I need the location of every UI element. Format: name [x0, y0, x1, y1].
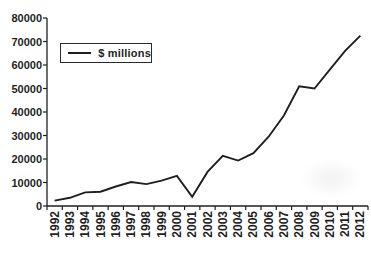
x-tick-label: 2006: [262, 211, 276, 238]
x-tick-label: 2004: [231, 211, 245, 238]
x-tick-label: 1999: [155, 211, 169, 238]
y-tick-label: 20000: [11, 153, 42, 165]
x-tick-label: 1996: [109, 211, 123, 238]
x-tick-label: 2010: [323, 211, 337, 238]
x-tick-label: 2001: [185, 211, 199, 238]
x-tick-label: 2007: [277, 211, 291, 238]
y-tick-label: 60000: [11, 59, 42, 71]
legend: $ millions: [60, 43, 152, 63]
x-tick-label: 2012: [353, 211, 367, 238]
x-tick-label: 1997: [124, 211, 138, 238]
x-tick-label: 2000: [170, 211, 184, 238]
y-tick-label: 70000: [11, 36, 42, 48]
chart-figure: 0100002000030000400005000060000700008000…: [0, 0, 371, 253]
legend-line-sample: [68, 52, 91, 54]
x-tick-label: 2005: [246, 211, 260, 238]
x-tick-label: 1993: [63, 211, 77, 238]
y-tick-label: 0: [36, 200, 42, 212]
x-tick-label: 2003: [216, 211, 230, 238]
y-tick-label: 40000: [11, 106, 42, 118]
y-tick-label: 50000: [11, 83, 42, 95]
x-tick-label: 1992: [48, 211, 62, 238]
x-tick-label: 1995: [94, 211, 108, 238]
y-tick-label: 80000: [11, 12, 42, 24]
x-tick-label: 2009: [308, 211, 322, 238]
x-tick-label: 1994: [78, 211, 92, 238]
legend-label: $ millions: [98, 47, 151, 59]
x-tick-label: 2011: [338, 211, 352, 237]
chart-svg: 0100002000030000400005000060000700008000…: [0, 0, 371, 253]
x-tick-label: 1998: [139, 211, 153, 238]
x-tick-label: 2008: [292, 211, 306, 238]
x-tick-label: 2002: [201, 211, 215, 238]
y-tick-label: 10000: [11, 177, 42, 189]
y-tick-label: 30000: [11, 130, 42, 142]
